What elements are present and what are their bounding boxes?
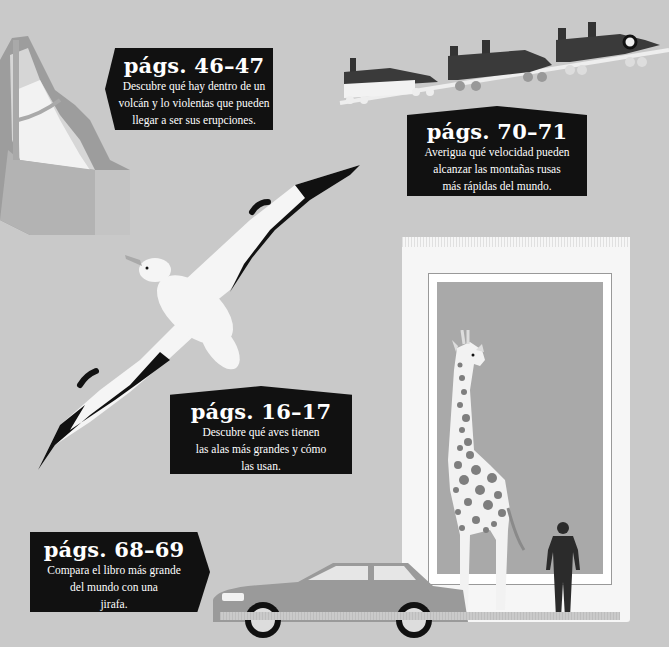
label-volcano-pages: págs. 46–47 Descubre qué hay dentro de u… bbox=[105, 48, 273, 130]
label-title: págs. 70–71 bbox=[407, 120, 587, 144]
label-line: más rápidas del mundo. bbox=[407, 178, 587, 195]
label-line: volcán y lo violentas que pueden bbox=[115, 95, 273, 112]
label-line: jirafa. bbox=[30, 596, 198, 613]
label-rollercoaster-pages: págs. 70–71 Averigua qué velocidad puede… bbox=[407, 106, 587, 196]
rollercoaster-illustration bbox=[330, 10, 669, 110]
label-albatross-pages: págs. 16–17 Descubre qué aves tienen las… bbox=[170, 386, 352, 474]
car-illustration bbox=[208, 530, 468, 640]
label-line: las alas más grandes y cómo bbox=[170, 441, 352, 458]
ground-strip bbox=[220, 612, 620, 620]
label-line: Descubre qué hay dentro de un bbox=[115, 78, 273, 95]
label-title: págs. 16–17 bbox=[170, 400, 352, 424]
label-title: págs. 46–47 bbox=[115, 54, 273, 78]
human-silhouette-illustration bbox=[543, 520, 583, 620]
label-book-pages: págs. 68–69 Compara el libro más grande … bbox=[30, 532, 210, 612]
label-line: alcanzar las montañas rusas bbox=[407, 161, 587, 178]
infographic-page: págs. 46–47 Descubre qué hay dentro de u… bbox=[0, 0, 669, 647]
label-line: Compara el libro más grande bbox=[30, 562, 198, 579]
label-line: Descubre qué aves tienen bbox=[170, 424, 352, 441]
label-title: págs. 68–69 bbox=[30, 538, 198, 562]
label-line: llegar a ser sus erupciones. bbox=[115, 112, 273, 129]
label-line: Averigua qué velocidad pueden bbox=[407, 144, 587, 161]
label-line: las usan. bbox=[170, 458, 352, 475]
label-line: del mundo con una bbox=[30, 579, 198, 596]
